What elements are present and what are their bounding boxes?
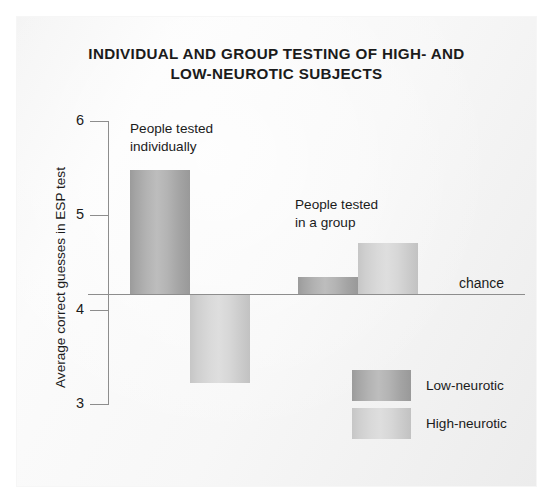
annotation-people-tested-in-a-group: People tested in a group [295,196,378,231]
bar-high-neurotic-individual [190,295,250,383]
legend-swatch-low-neurotic [352,370,411,401]
legend-label-low-neurotic: Low-neurotic [426,378,504,393]
y-tick-4 [90,310,108,311]
legend-item-low-neurotic: Low-neurotic [352,369,507,402]
legend-item-high-neurotic: High-neurotic [352,407,507,440]
plot-area: 6 5 4 3 Average correct guesses in ESP t… [0,0,553,504]
annotation-people-tested-individually: People tested individually [130,120,213,155]
chart-legend: Low-neurotic High-neurotic [352,369,507,445]
legend-swatch-high-neurotic [352,408,411,439]
legend-label-high-neurotic: High-neurotic [426,416,507,431]
y-axis-title: Average correct guesses in ESP test [53,163,68,393]
y-tick-6 [90,121,108,122]
y-tick-5 [90,215,108,216]
bar-low-neurotic-individual [130,170,190,294]
y-tick-label-6: 6 [62,112,84,128]
y-tick-label-3: 3 [62,395,84,411]
y-tick-3 [90,404,108,405]
bar-high-neurotic-group [358,243,418,294]
y-axis-line [108,121,109,405]
chart-figure: INDIVIDUAL AND GROUP TESTING OF HIGH- AN… [0,0,553,504]
chance-label: chance [459,275,504,291]
chance-reference-line [88,294,525,295]
bar-low-neurotic-group [298,277,358,294]
